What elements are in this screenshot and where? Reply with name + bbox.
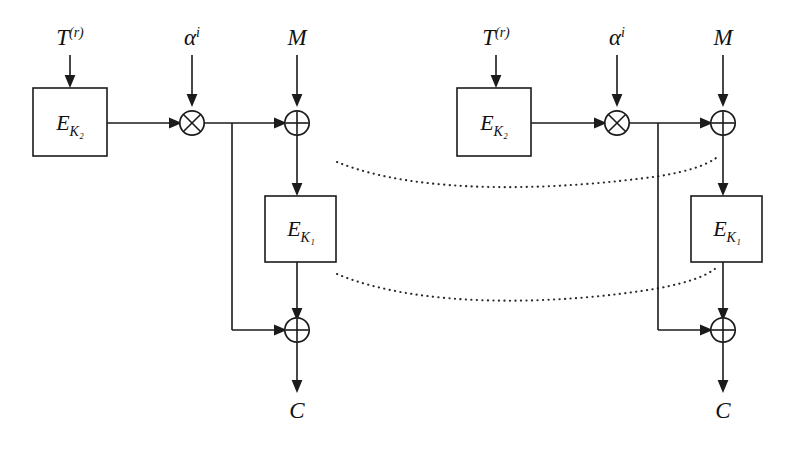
block-ek2-left: [33, 88, 107, 156]
label-ciphertext-right: C: [715, 398, 731, 423]
label-message-right: M: [712, 25, 734, 50]
cipher-diagram: T(r) EK₂ αi: [0, 0, 789, 451]
diagram-root: T(r) EK₂ αi: [0, 0, 789, 451]
canvas-background: [0, 0, 789, 451]
block-ek2-right: [457, 88, 531, 156]
label-message-left: M: [286, 25, 308, 50]
label-ciphertext-left: C: [289, 398, 305, 423]
